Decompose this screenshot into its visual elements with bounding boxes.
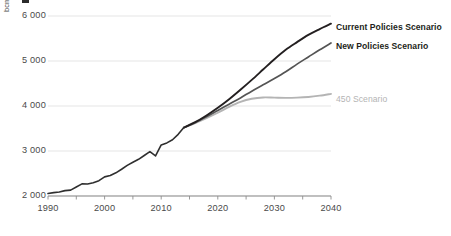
series-line-450-scenario [184,94,331,128]
series-label-450-scenario: 450 Scenario [336,94,387,104]
x-axis-tick-label: 1990 [28,203,68,213]
y-axis-tick-label: 5 000 [2,55,46,65]
y-axis-tick-label: 4 000 [2,100,46,110]
chart-plot-area [0,0,451,236]
series-line-current-policies-scenario [184,24,331,128]
y-axis-tick-label: 3 000 [2,145,46,155]
series-line-historical [48,128,184,194]
x-axis-tick-label: 2020 [198,203,238,213]
x-axis-tick-label: 2000 [85,203,125,213]
x-axis-tick-label: 2030 [254,203,294,213]
y-axis-tick-label: 2 000 [2,190,46,200]
x-axis-tick-label: 2010 [141,203,181,213]
y-axis-tick-label: 6 000 [2,10,46,20]
x-axis-tick-label: 2040 [311,203,351,213]
chart-container: bcm 2 0003 0004 0005 0006 000 1990200020… [0,0,451,236]
series-label-current-policies-scenario: Current Policies Scenario [336,22,442,32]
series-label-new-policies-scenario: New Policies Scenario [336,41,428,51]
